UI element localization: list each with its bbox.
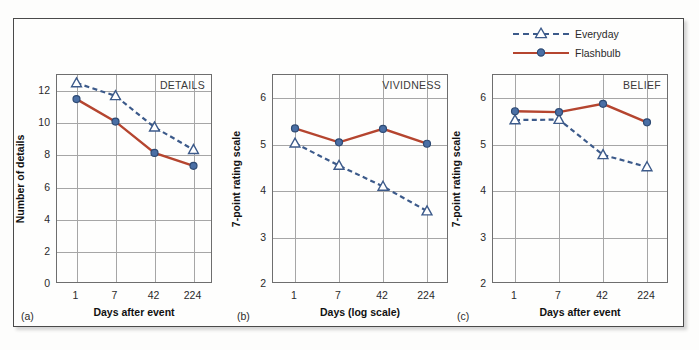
x-axis-label: Days after event (539, 306, 620, 318)
panel-letter: (c) (457, 310, 469, 322)
y-axis-tick-label: 5 (464, 138, 486, 150)
y-axis-tick-label: 6 (464, 91, 486, 103)
data-point-filled-circle (600, 100, 607, 107)
plot-area: BELIEF (492, 74, 668, 283)
x-axis-tick-label: 1 (511, 289, 517, 301)
y-axis-tick-label: 4 (464, 184, 486, 196)
x-axis-tick-label: 7 (555, 289, 561, 301)
series-layer (493, 75, 669, 284)
data-point-filled-circle (644, 119, 651, 126)
figure-root: Everyday Flashbulb DETAILS02468101217422… (0, 0, 699, 350)
panel-title: BELIEF (623, 79, 661, 91)
y-axis-tick-label: 2 (464, 277, 486, 289)
x-axis-tick-label: 42 (596, 289, 608, 301)
data-point-filled-circle (512, 108, 519, 115)
y-axis-tick-label: 3 (464, 231, 486, 243)
data-point-filled-circle (556, 109, 563, 116)
chart-panel-c: BELIEF2345617422247-point rating scaleDa… (0, 0, 699, 350)
y-axis-label: 7-point rating scale (450, 130, 462, 226)
x-axis-tick-label: 224 (637, 289, 655, 301)
data-point-open-triangle (642, 162, 652, 171)
series-line-everyday (515, 120, 647, 167)
